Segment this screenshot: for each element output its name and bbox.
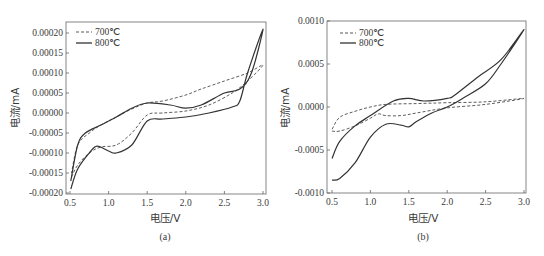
chart-b: 0.00100.00050.0000-0.0005-0.0010 0.51.01… bbox=[279, 16, 530, 243]
y-tick-label: 0.0005 bbox=[298, 59, 324, 69]
chart-b-x-axis-title: 电压/V bbox=[408, 212, 440, 224]
y-tick-label: -0.00015 bbox=[29, 168, 63, 178]
y-tick-label: -0.00010 bbox=[29, 148, 63, 158]
legend-label-700: 700℃ bbox=[95, 27, 120, 37]
chart-b-legend: 700℃ 800℃ bbox=[340, 28, 384, 48]
y-tick-label: -0.00020 bbox=[29, 188, 63, 198]
x-tick-label: 1.5 bbox=[403, 197, 415, 207]
chart-a-plot-area bbox=[71, 29, 263, 189]
chart-a-y-axis: 0.000200.000150.000100.000050.00000-0.00… bbox=[29, 28, 69, 198]
chart-a-x-axis-title: 电压/V bbox=[150, 212, 182, 224]
chart-b-panel-label: (b) bbox=[417, 231, 429, 243]
chart-b-y-axis-title: 电流/mA bbox=[279, 87, 291, 129]
y-tick-label: -0.0005 bbox=[295, 145, 325, 155]
x-tick-label: 2.5 bbox=[218, 198, 230, 208]
legend-label-800: 800℃ bbox=[359, 38, 384, 48]
chart-a-y-axis-title: 电流/mA bbox=[9, 87, 21, 129]
x-tick-label: 2.0 bbox=[180, 198, 192, 208]
x-tick-label: 1.0 bbox=[364, 197, 376, 207]
chart-b-frame bbox=[327, 21, 526, 193]
chart-a: 0.000200.000150.000100.000050.00000-0.00… bbox=[9, 22, 269, 243]
y-tick-label: 0.00005 bbox=[32, 88, 63, 98]
figure: 0.000200.000150.000100.000050.00000-0.00… bbox=[0, 0, 544, 256]
legend-label-800: 800℃ bbox=[95, 38, 120, 48]
series-800-solid bbox=[71, 29, 263, 189]
y-tick-label: -0.00005 bbox=[29, 128, 63, 138]
chart-b-x-axis: 0.51.01.52.02.53.0 bbox=[326, 190, 530, 207]
chart-a-panel-label: (a) bbox=[159, 231, 170, 243]
chart-b-y-axis: 0.00100.00050.0000-0.0005-0.0010 bbox=[295, 16, 330, 198]
y-tick-label: 0.0010 bbox=[298, 16, 324, 26]
series-700-dashed bbox=[72, 65, 264, 177]
chart-a-x-axis: 0.51.01.52.02.53.0 bbox=[64, 191, 269, 208]
x-tick-label: 3.0 bbox=[518, 197, 530, 207]
y-tick-label: 0.00010 bbox=[32, 68, 63, 78]
x-tick-label: 1.0 bbox=[103, 198, 115, 208]
y-tick-label: 0.00020 bbox=[32, 28, 63, 38]
y-tick-label: -0.0010 bbox=[295, 188, 325, 198]
chart-b-plot-area bbox=[332, 30, 524, 181]
legend-label-700: 700℃ bbox=[359, 28, 384, 38]
series-800-solid bbox=[332, 30, 524, 181]
x-tick-label: 0.5 bbox=[326, 197, 338, 207]
y-tick-label: 0.00000 bbox=[32, 108, 63, 118]
x-tick-label: 2.5 bbox=[480, 197, 492, 207]
y-tick-label: 0.00015 bbox=[32, 48, 63, 58]
y-tick-label: 0.0000 bbox=[298, 102, 324, 112]
x-tick-label: 1.5 bbox=[141, 198, 153, 208]
x-tick-label: 3.0 bbox=[257, 198, 269, 208]
x-tick-label: 0.5 bbox=[64, 198, 76, 208]
chart-a-legend: 700℃ 800℃ bbox=[76, 27, 120, 48]
x-tick-label: 2.0 bbox=[441, 197, 453, 207]
